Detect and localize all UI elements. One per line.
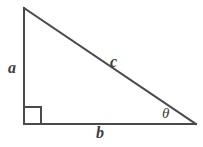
side-a-label: a bbox=[8, 60, 16, 76]
right-angle-marker-icon bbox=[24, 107, 41, 124]
side-b-label: b bbox=[96, 125, 104, 141]
angle-theta-label: θ bbox=[162, 106, 169, 121]
side-c-label: c bbox=[110, 54, 117, 70]
right-triangle-figure: a b c θ bbox=[0, 0, 203, 147]
